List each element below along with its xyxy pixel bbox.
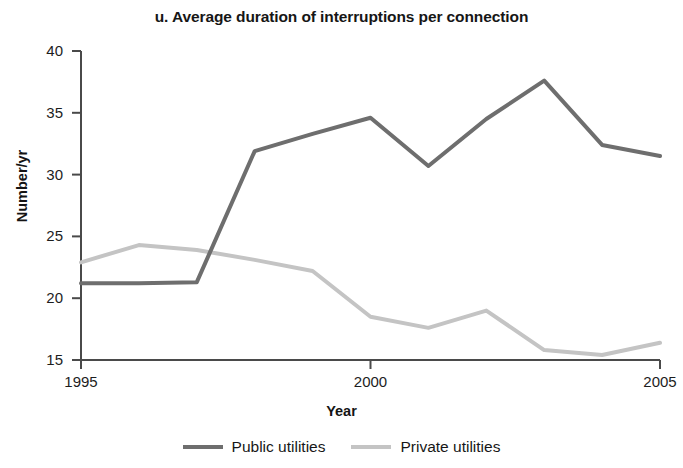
y-axis-ticks: [72, 51, 81, 360]
y-axis-tick-label: 35: [23, 104, 63, 121]
y-axis-tick-label: 15: [23, 351, 63, 368]
x-axis-tick-label: 2005: [630, 373, 683, 390]
x-axis-tick-label: 1995: [51, 373, 111, 390]
line-series-public-utilities: [81, 81, 660, 284]
legend-label: Public utilities: [232, 438, 326, 456]
line-series-private-utilities: [81, 245, 660, 355]
x-axis-ticks: [81, 360, 660, 369]
legend-entry[interactable]: Public utilities: [183, 438, 326, 456]
y-axis-tick-label: 20: [23, 289, 63, 306]
legend-swatch-icon: [183, 445, 223, 449]
legend-entry[interactable]: Private utilities: [351, 438, 500, 456]
y-axis-title: Number/yr: [14, 131, 30, 241]
axis-lines: [81, 51, 660, 360]
legend-label: Private utilities: [400, 438, 500, 456]
y-axis-tick-label: 40: [23, 42, 63, 59]
x-axis-tick-label: 2000: [341, 373, 401, 390]
chart-legend: Public utilitiesPrivate utilities: [0, 438, 683, 456]
chart-figure: u. Average duration of interruptions per…: [0, 0, 683, 468]
plot-area: [0, 0, 683, 468]
x-axis-title: Year: [0, 403, 683, 419]
legend-swatch-icon: [351, 445, 391, 449]
